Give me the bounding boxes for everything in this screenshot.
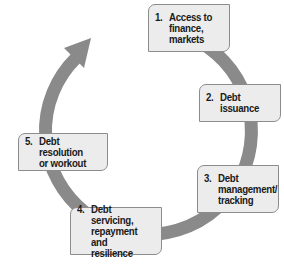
stage-4-number: 4. [77, 204, 90, 215]
stage-2-number: 2. [206, 92, 219, 103]
stage-5-box: 5. Debt resolution or workout [18, 133, 108, 171]
stage-3-number: 3. [204, 173, 217, 184]
stage-2-label: Debt issuance [220, 92, 259, 114]
stage-5-number: 5. [25, 136, 38, 147]
stage-1-box: 1. Access to finance, markets [148, 4, 230, 52]
stage-4-label: Debt servicing, repayment and resilience [91, 204, 152, 259]
stage-1-number: 1. [155, 12, 168, 23]
stage-4-box: 4. Debt servicing, repayment and resilie… [70, 207, 162, 255]
stage-3-box: 3. Debt management/ tracking [197, 165, 279, 213]
stage-5-label: Debt resolution or workout [39, 136, 98, 169]
stage-2-box: 2. Debt issuance [199, 84, 281, 122]
stage-3-label: Debt management/ tracking [218, 173, 277, 206]
stage-1-label: Access to finance, markets [169, 12, 212, 45]
